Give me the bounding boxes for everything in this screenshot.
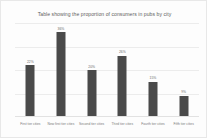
bar[interactable]: [26, 65, 35, 117]
bar[interactable]: [118, 56, 127, 117]
bar[interactable]: [148, 82, 157, 117]
bars-layer: 22%36%20%26%15%9%: [15, 23, 199, 117]
bar-value-label: 22%: [27, 60, 34, 64]
bar-group[interactable]: 36%: [46, 23, 77, 117]
x-tick-label: First tier cities: [15, 122, 46, 127]
bar-value-label: 15%: [150, 76, 157, 80]
bar-value-label: 36%: [58, 27, 65, 31]
bar-group[interactable]: 15%: [138, 23, 169, 117]
x-tick-label: Second tier cities: [76, 122, 107, 127]
bar-value-label: 9%: [181, 90, 186, 94]
x-axis-tick-labels: First tier citiesNew first tier citiesSe…: [15, 122, 199, 132]
bar-group[interactable]: 22%: [15, 23, 46, 117]
x-tick-label: Fourth tier cities: [138, 122, 169, 127]
x-tick-label: Fifth tier cities: [168, 122, 199, 127]
bar[interactable]: [56, 32, 65, 117]
bar-value-label: 20%: [88, 65, 95, 69]
bar-group[interactable]: 26%: [107, 23, 138, 117]
bar-group[interactable]: 9%: [168, 23, 199, 117]
bar[interactable]: [87, 70, 96, 117]
chart-figure: Table showing the proportion of consumer…: [0, 0, 207, 138]
bar-value-label: 26%: [119, 50, 126, 54]
x-axis-line: [15, 116, 199, 117]
plot-area: 22%36%20%26%15%9%: [15, 23, 199, 117]
bar-group[interactable]: 20%: [76, 23, 107, 117]
bar[interactable]: [179, 96, 188, 117]
x-tick-label: New first tier cities: [46, 122, 77, 127]
chart-title: Table showing the proportion of consumer…: [1, 11, 207, 18]
x-tick-label: Third tier cities: [107, 122, 138, 127]
